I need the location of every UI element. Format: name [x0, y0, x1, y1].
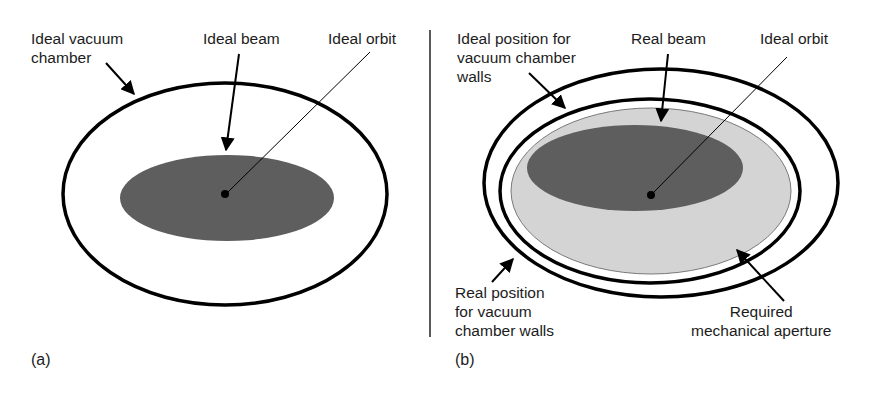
chamber-arrow	[106, 63, 134, 94]
panel-b-graphic	[484, 54, 838, 301]
label-real-beam: Real beam	[631, 29, 706, 48]
beam-arrow	[226, 54, 239, 150]
ideal-orbit-dot	[221, 190, 229, 198]
label-ideal-vacuum-chamber: Ideal vacuum chamber	[31, 29, 123, 67]
panel-tag-a: (a)	[31, 350, 51, 369]
label-ideal-orbit-a: Ideal orbit	[328, 29, 396, 48]
real-beam	[527, 125, 743, 211]
label-real-wall-position: Real position for vacuum chamber walls	[455, 283, 554, 340]
label-ideal-wall-position: Ideal position for vacuum chamber walls	[457, 29, 576, 86]
real-walls-arrow	[492, 259, 513, 282]
diagram-graphics	[0, 0, 880, 400]
figure: Ideal vacuum chamber Ideal beam Ideal or…	[0, 0, 880, 400]
label-required-aperture: Required mechanical aperture	[691, 302, 831, 340]
label-ideal-beam: Ideal beam	[203, 29, 280, 48]
panel-tag-b: (b)	[455, 350, 475, 369]
aperture-arrow	[737, 250, 784, 301]
ideal-beam	[120, 155, 334, 241]
label-ideal-orbit-b: Ideal orbit	[760, 29, 828, 48]
panel-a-graphic	[63, 52, 387, 305]
